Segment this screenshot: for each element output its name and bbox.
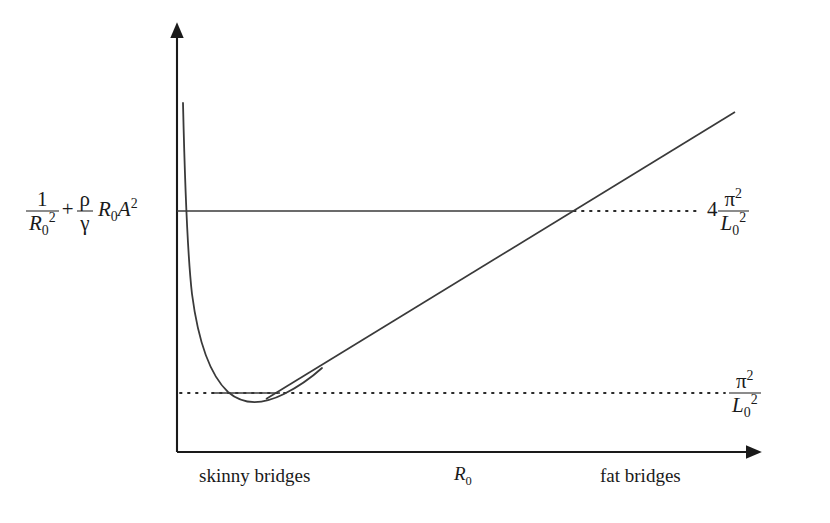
rising-line [266, 112, 735, 399]
lower-level-label: π2 L02 [729, 371, 761, 416]
x-axis-variable-label: R0 [454, 463, 472, 485]
left-level-formula: 1 R02 + ρ γ R0A2 [26, 189, 138, 234]
term-R0-A-squared: R0A2 [98, 197, 138, 221]
fraction-pisq-over-L0sq-lower: π2 L02 [729, 371, 761, 416]
energy-curve [183, 103, 322, 402]
fraction-rho-over-gamma: ρ γ [77, 189, 93, 234]
x-axis-label-fat-bridges: fat bridges [600, 465, 681, 487]
figure-page: { "chart_data": { "type": "line", "title… [0, 0, 830, 523]
fraction-pisq-over-L0sq: π2 L02 [718, 189, 750, 234]
coefficient-four: 4 [707, 197, 718, 221]
plus-sign: + [62, 197, 74, 221]
plot-canvas [0, 0, 830, 523]
fraction-one-over-R0sq: 1 R02 [26, 189, 59, 234]
upper-level-label: 4 π2 L02 [707, 189, 749, 234]
x-axis-label-skinny-bridges: skinny bridges [199, 465, 310, 487]
